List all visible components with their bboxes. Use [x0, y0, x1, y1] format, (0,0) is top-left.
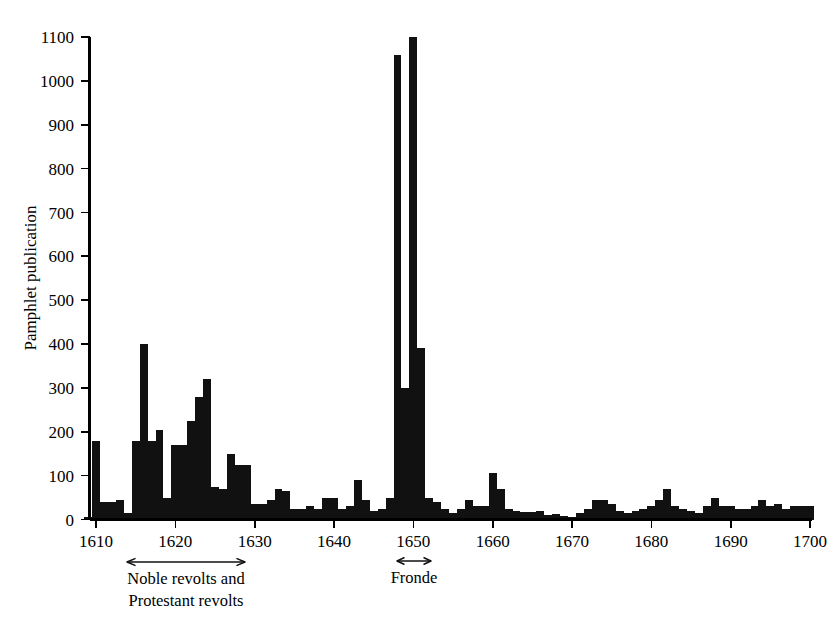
- bar: [513, 511, 521, 520]
- bar: [592, 500, 600, 520]
- bar: [505, 509, 513, 520]
- bar: [282, 491, 290, 520]
- bar: [790, 506, 798, 519]
- bar: [275, 489, 283, 520]
- bar: [338, 509, 346, 520]
- bar: [703, 506, 711, 519]
- bar: [259, 504, 267, 519]
- bar: [497, 489, 505, 520]
- y-tick-label: 0: [66, 511, 75, 530]
- bar: [647, 506, 655, 519]
- bar: [425, 498, 433, 520]
- bar: [298, 509, 306, 520]
- bar: [116, 500, 124, 520]
- bar: [195, 397, 203, 520]
- x-tick-label: 1640: [317, 532, 351, 551]
- bar: [774, 504, 782, 519]
- bar: [655, 500, 663, 520]
- bar: [386, 498, 394, 520]
- y-tick-label: 900: [49, 116, 75, 135]
- x-tick-label: 1620: [158, 532, 192, 551]
- bar: [314, 509, 322, 520]
- bar: [203, 379, 211, 519]
- bar: [639, 509, 647, 520]
- annotation-noble-revolts: Noble revolts and Protestant revolts: [127, 559, 245, 610]
- bar: [346, 506, 354, 519]
- y-tick-label: 500: [49, 291, 75, 310]
- bar: [584, 509, 592, 520]
- bar: [663, 489, 671, 520]
- bar: [616, 511, 624, 520]
- bar: [148, 441, 156, 520]
- fronde-label: Fronde: [391, 568, 438, 587]
- bar: [711, 498, 719, 520]
- noble-revolts-arrow: [127, 559, 245, 566]
- bar: [267, 500, 275, 520]
- bar: [378, 509, 386, 520]
- bar: [211, 487, 219, 520]
- y-axis-ticks: 010020030040050060070080090010001100: [40, 28, 90, 530]
- noble-revolts-label-line1: Noble revolts and: [127, 569, 245, 588]
- chart-figure: 010020030040050060070080090010001100 161…: [0, 0, 836, 631]
- bar: [441, 509, 449, 520]
- bar: [187, 421, 195, 520]
- bar: [489, 473, 497, 519]
- bar: [156, 430, 164, 520]
- bar: [457, 509, 465, 520]
- bar: [735, 509, 743, 520]
- bar: [679, 509, 687, 520]
- bar: [727, 506, 735, 519]
- bar: [401, 388, 409, 520]
- bar: [370, 511, 378, 520]
- bar: [528, 512, 536, 520]
- x-tick-label: 1610: [79, 532, 113, 551]
- bar: [743, 509, 751, 520]
- bar: [806, 506, 814, 519]
- bar: [243, 465, 251, 520]
- y-axis-title-group: Pamphlet publication: [21, 205, 40, 350]
- bar: [163, 498, 171, 520]
- bar: [219, 489, 227, 520]
- bar: [251, 504, 259, 519]
- bar: [132, 441, 140, 520]
- bar: [751, 506, 759, 519]
- bar: [330, 498, 338, 520]
- bar: [632, 511, 640, 520]
- bar: [719, 506, 727, 519]
- bar: [608, 504, 616, 519]
- bar: [227, 454, 235, 520]
- y-tick-label: 200: [49, 423, 75, 442]
- bar: [394, 55, 402, 520]
- bar: [465, 500, 473, 520]
- pamphlet-publication-bar-chart: 010020030040050060070080090010001100 161…: [0, 0, 836, 631]
- y-tick-label: 1100: [41, 28, 74, 47]
- x-tick-label: 1690: [714, 532, 748, 551]
- bar: [92, 441, 100, 520]
- y-tick-label: 800: [49, 160, 75, 179]
- bar: [354, 480, 362, 519]
- bar: [140, 344, 148, 519]
- bar: [235, 465, 243, 520]
- bar: [362, 500, 370, 520]
- y-tick-label: 700: [49, 204, 75, 223]
- bar: [481, 506, 489, 519]
- noble-revolts-label-line2: Protestant revolts: [128, 591, 243, 610]
- bar: [409, 37, 417, 520]
- bar: [322, 498, 330, 520]
- bars-group: [84, 37, 814, 520]
- y-tick-label: 1000: [40, 72, 74, 91]
- x-tick-label: 1650: [396, 532, 430, 551]
- bar: [417, 348, 425, 519]
- bar: [290, 509, 298, 520]
- x-axis-ticks: 1610162016301640165016601670168016901700: [79, 520, 827, 552]
- bar: [473, 506, 481, 519]
- fronde-arrow: [397, 558, 431, 564]
- bar: [520, 512, 528, 520]
- bar: [687, 511, 695, 520]
- bar: [600, 500, 608, 520]
- bar: [798, 506, 806, 519]
- y-axis-title: Pamphlet publication: [21, 205, 40, 350]
- bar: [766, 506, 774, 519]
- bar: [306, 506, 314, 519]
- annotation-fronde: Fronde: [391, 558, 438, 587]
